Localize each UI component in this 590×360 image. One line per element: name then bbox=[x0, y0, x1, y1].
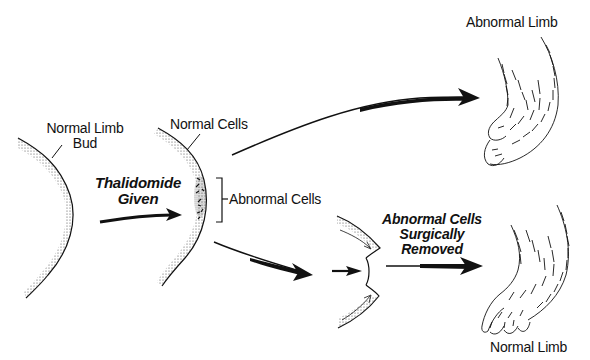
normal-limb-bud bbox=[18, 138, 73, 298]
thalidomide-line1: Thalidomide bbox=[88, 175, 188, 191]
normal-limb-label: Normal Limb bbox=[490, 340, 567, 355]
abnormal-limb-label: Abnormal Limb bbox=[466, 15, 558, 30]
normal-cells-leader bbox=[187, 134, 200, 150]
normal-cells-label: Normal Cells bbox=[170, 117, 248, 132]
abnormal-cells-label: Abnormal Cells bbox=[229, 192, 321, 207]
normal-limb-drawing bbox=[482, 205, 569, 334]
treated-limb-bud bbox=[154, 128, 228, 286]
normal-limb-bud-line1: Normal Limb bbox=[40, 121, 130, 136]
removed-line3: Removed bbox=[372, 242, 492, 257]
surgery-arrow bbox=[386, 257, 483, 275]
normal-limb-bud-line2: Bud bbox=[40, 136, 130, 151]
abnormal-limb-drawing bbox=[484, 37, 558, 166]
normal-limb-bud-label: Normal Limb Bud bbox=[40, 121, 130, 151]
arrow-to-surgery bbox=[214, 242, 313, 281]
abnormal-cells-bracket bbox=[216, 178, 222, 222]
removed-line1: Abnormal Cells bbox=[372, 212, 492, 227]
thalidomide-given-label: Thalidomide Given bbox=[88, 175, 188, 207]
removed-line2: Surgically bbox=[372, 227, 492, 242]
surgically-removed-label: Abnormal Cells Surgically Removed bbox=[372, 212, 492, 257]
diagram-canvas: Normal Limb Bud Normal Cells Abnormal Ce… bbox=[0, 0, 590, 360]
arrow-to-abnormal-limb bbox=[232, 88, 480, 155]
thalidomide-line2: Given bbox=[88, 191, 188, 207]
thalidomide-arrow bbox=[100, 208, 182, 222]
